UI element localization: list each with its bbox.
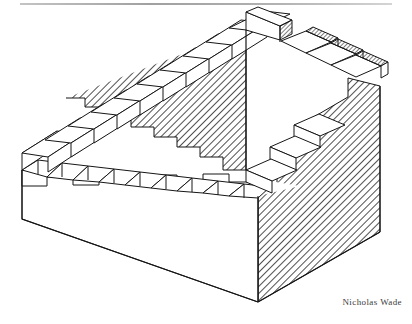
artist-credit: Nicholas Wade	[342, 297, 402, 307]
impossible-staircase-illustration	[0, 0, 412, 324]
left-ascending-flight	[22, 11, 290, 172]
figure-page: Nicholas Wade	[0, 0, 412, 324]
